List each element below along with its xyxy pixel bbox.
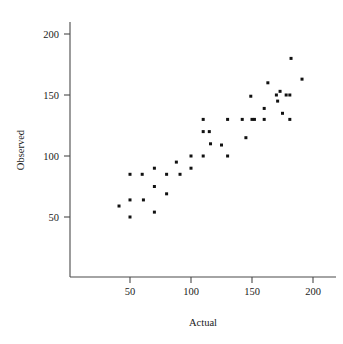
data-point — [288, 118, 291, 121]
data-point — [190, 167, 193, 170]
y-tick-label: 200 — [43, 29, 59, 40]
data-point — [275, 94, 278, 97]
data-point — [244, 136, 247, 139]
data-point — [129, 198, 132, 201]
data-point — [202, 118, 205, 121]
data-point — [241, 118, 244, 121]
y-axis-ticks: 50100150200 — [43, 29, 70, 223]
data-point — [129, 216, 132, 219]
data-point — [281, 112, 284, 115]
data-point — [226, 118, 229, 121]
x-tick-label: 100 — [183, 286, 199, 297]
data-point — [263, 107, 266, 110]
data-point — [202, 130, 205, 133]
data-point — [301, 78, 304, 81]
data-point — [153, 211, 156, 214]
data-point — [279, 90, 282, 93]
data-point — [153, 185, 156, 188]
y-tick-label: 50 — [49, 212, 60, 223]
plot-canvas: 50100150200 50100150200 Observed Actual — [0, 0, 343, 344]
data-point — [118, 205, 121, 208]
data-point — [226, 155, 229, 158]
x-tick-label: 200 — [305, 286, 321, 297]
data-point — [288, 94, 291, 97]
data-point — [165, 173, 168, 176]
data-point — [208, 130, 211, 133]
data-point — [202, 155, 205, 158]
x-axis-title: Actual — [189, 317, 217, 328]
axes-group — [70, 22, 336, 277]
data-point — [179, 173, 182, 176]
data-point — [266, 81, 269, 84]
data-point — [175, 161, 178, 164]
data-point — [153, 167, 156, 170]
data-point — [263, 118, 266, 121]
data-point — [129, 173, 132, 176]
data-point — [209, 142, 212, 145]
x-axis-ticks: 50100150200 — [125, 277, 321, 297]
data-point — [290, 57, 293, 60]
data-point — [249, 95, 252, 98]
data-point — [220, 144, 223, 147]
data-point — [190, 155, 193, 158]
data-point — [285, 94, 288, 97]
data-point — [142, 198, 145, 201]
data-point — [253, 118, 256, 121]
scatter-plot-figure: 50100150200 50100150200 Observed Actual — [0, 0, 343, 344]
x-tick-label: 50 — [125, 286, 136, 297]
data-points-group — [118, 57, 304, 219]
data-point — [165, 192, 168, 195]
data-point — [276, 100, 279, 103]
data-point — [141, 173, 144, 176]
y-tick-label: 100 — [43, 151, 59, 162]
y-tick-label: 150 — [43, 90, 59, 101]
y-axis-title: Observed — [15, 129, 26, 170]
x-tick-label: 150 — [244, 286, 260, 297]
